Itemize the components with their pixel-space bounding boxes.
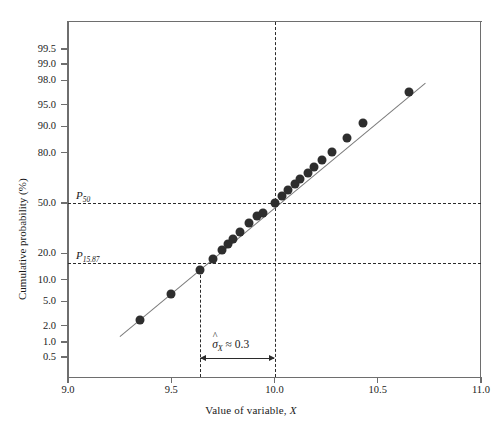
y-tick xyxy=(61,325,67,326)
y-tick xyxy=(61,341,67,342)
y-tick-label: 2.0 xyxy=(0,321,56,332)
y-axis-title: Cumulative probability (%) xyxy=(16,178,28,300)
data-point xyxy=(328,147,337,156)
y-tick-label: 5.0 xyxy=(0,296,56,307)
y-tick-label: 98.0 xyxy=(0,75,56,86)
x-axis-title: Value of variable, X xyxy=(0,404,502,416)
y-tick xyxy=(61,63,67,64)
sigma-annotation-text: ^σX ≈ 0.3 xyxy=(212,338,249,353)
sigma-arrow-line xyxy=(200,358,274,359)
y-tick xyxy=(61,301,67,302)
y-tick-label: 99.0 xyxy=(0,59,56,70)
data-point xyxy=(167,289,176,298)
data-point xyxy=(270,199,279,208)
data-point xyxy=(244,218,253,227)
y-tick-label: 10.0 xyxy=(0,275,56,286)
sigma-arrow-head-right xyxy=(269,355,275,361)
x-tick-label: 10.5 xyxy=(369,384,387,395)
x-tick-label: 10.0 xyxy=(265,384,283,395)
x-tick xyxy=(67,377,68,383)
y-tick-label: 1.0 xyxy=(0,337,56,348)
y-tick xyxy=(61,356,67,357)
x-tick-label: 9.0 xyxy=(61,384,74,395)
data-point xyxy=(208,254,217,263)
data-point xyxy=(236,227,245,236)
y-tick-label: 95.0 xyxy=(0,100,56,111)
data-point xyxy=(342,134,351,143)
y-tick-label: 99.5 xyxy=(0,44,56,55)
data-point xyxy=(309,163,318,172)
data-point xyxy=(259,208,268,217)
x-tick xyxy=(480,377,481,383)
p15-87-label: P15.87 xyxy=(76,249,100,264)
y-tick-label: 0.5 xyxy=(0,352,56,363)
fitted-line xyxy=(119,83,426,338)
data-point xyxy=(229,234,238,243)
y-axis-line xyxy=(67,21,69,378)
data-point xyxy=(404,88,413,97)
y-tick xyxy=(61,279,67,280)
x-tick-label: 11.0 xyxy=(472,384,490,395)
sigma-arrow-head-left xyxy=(200,355,206,361)
y-tick xyxy=(61,202,67,203)
data-point xyxy=(196,266,205,275)
y-tick xyxy=(61,48,67,49)
y-tick-label: 20.0 xyxy=(0,248,56,259)
y-tick xyxy=(61,126,67,127)
probability-plot-figure: 0.51.02.05.010.020.050.080.090.095.098.0… xyxy=(0,0,502,433)
data-point xyxy=(136,316,145,325)
data-point xyxy=(317,155,326,164)
p50-label: P50 xyxy=(76,189,90,204)
y-tick xyxy=(61,253,67,254)
y-tick xyxy=(61,152,67,153)
y-tick-label: 90.0 xyxy=(0,121,56,132)
data-point xyxy=(359,118,368,127)
x-tick xyxy=(377,377,378,383)
y-tick xyxy=(61,104,67,105)
y-tick xyxy=(61,80,67,81)
x-tick xyxy=(171,377,172,383)
y-tick-label: 80.0 xyxy=(0,148,56,159)
x-tick-label: 9.5 xyxy=(165,384,178,395)
x-tick xyxy=(274,377,275,383)
plot-frame-right xyxy=(480,21,481,378)
y-tick-label: 50.0 xyxy=(0,198,56,209)
